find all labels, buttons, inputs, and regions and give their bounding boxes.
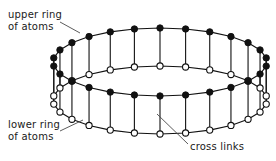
upper-ring-atom: [107, 29, 113, 35]
upper-ring-atom: [182, 92, 188, 98]
lower-ring-atom: [183, 64, 189, 70]
upper-ring-atom: [263, 63, 269, 69]
upper-ring-atom: [51, 55, 57, 61]
upper-ring-atom: [107, 89, 113, 95]
upper-ring-atom: [57, 47, 63, 53]
lower-ring-atom: [245, 116, 251, 122]
upper-ring-atom: [69, 39, 75, 45]
upper-ring-atom: [69, 78, 75, 84]
lower-ring-atom: [157, 131, 163, 137]
ring-diagram-canvas: upper ring of atoms lower ring of atoms …: [0, 0, 276, 161]
upper-ring-atom: [182, 26, 188, 32]
label-lower-ring-line1: lower ring: [8, 119, 60, 130]
lower-ring-atom: [257, 109, 263, 115]
upper-ring-atom: [228, 33, 234, 39]
upper-ring-atom: [157, 25, 163, 31]
lower-ring-atom: [107, 127, 113, 133]
lower-ring-atom: [51, 93, 57, 99]
lower-ring-atom: [107, 67, 113, 73]
upper-ring-atom: [207, 29, 213, 35]
upper-ring-atom: [157, 93, 163, 99]
label-upper-ring-line2: of atoms: [8, 21, 54, 32]
upper-ring-atom: [86, 84, 92, 90]
lower-ring-atom: [131, 130, 137, 136]
label-lower-ring-line2: of atoms: [8, 131, 54, 142]
upper-ring-atom: [245, 39, 251, 45]
upper-ring-atom: [257, 47, 263, 53]
lower-ring-atom: [228, 122, 234, 128]
leader-line-upper-ring: [60, 22, 80, 33]
cross-links-group: [54, 28, 266, 134]
lower-ring-atom: [86, 122, 92, 128]
upper-ring-atom: [57, 71, 63, 77]
lower-ring-atom: [69, 116, 75, 122]
upper-ring-atom: [51, 63, 57, 69]
upper-ring-atom: [228, 84, 234, 90]
lower-ring-atom: [228, 71, 234, 77]
lower-ring-atom: [207, 67, 213, 73]
label-cross-links: cross links: [190, 141, 244, 152]
lower-ring-atom: [86, 71, 92, 77]
lower-ring-atom: [183, 130, 189, 136]
upper-ring-atom: [263, 55, 269, 61]
upper-ring-atom: [207, 89, 213, 95]
lower-ring-atom: [257, 85, 263, 91]
lower-ring-atom: [263, 101, 269, 107]
upper-ring-atom: [131, 26, 137, 32]
label-upper-ring-line1: upper ring: [8, 9, 62, 20]
ring-of-atoms-figure: upper ring of atoms lower ring of atoms …: [0, 0, 276, 161]
lower-ring-atom: [57, 85, 63, 91]
upper-ring-atom: [131, 92, 137, 98]
upper-ring-atom: [245, 78, 251, 84]
leader-line-cross-links: [157, 114, 188, 144]
lower-ring-atom: [207, 127, 213, 133]
lower-ring-atom: [157, 63, 163, 69]
lower-ring-atom: [51, 101, 57, 107]
lower-ring-atom: [263, 93, 269, 99]
upper-ring-atom: [257, 71, 263, 77]
lower-ring-atom: [57, 109, 63, 115]
lower-ring-atom: [131, 64, 137, 70]
upper-ring-atom: [86, 33, 92, 39]
